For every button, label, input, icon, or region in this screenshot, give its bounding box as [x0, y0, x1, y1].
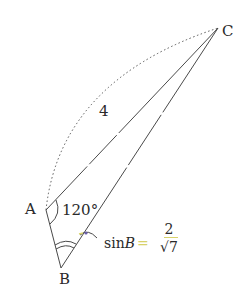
- sin-prefix: sin: [104, 235, 125, 251]
- angle-arc-b-outer: [55, 241, 76, 245]
- fraction-bar: [164, 237, 178, 238]
- diagram-canvas: [0, 0, 237, 300]
- side-length-label: 4: [99, 104, 109, 119]
- side-ac: [46, 28, 218, 210]
- vertex-label-a: A: [25, 202, 36, 217]
- vertex-label-c: C: [222, 24, 233, 39]
- equals-sign: =: [135, 235, 151, 251]
- point-d-marker: [84, 231, 87, 234]
- angle-arc-b-inner: [56, 246, 74, 249]
- fraction-denominator: √7: [160, 240, 178, 254]
- sin-label: sinB=: [104, 236, 151, 250]
- vertex-label-b: B: [59, 272, 70, 287]
- sin-variable: B: [125, 235, 135, 251]
- fraction: 2 √7: [160, 222, 178, 254]
- angle-arc-a: [50, 200, 58, 224]
- side-ab: [46, 210, 61, 268]
- highlight-mark: [79, 233, 83, 234]
- triangle-diagram: C 4 A 120° B sinB= 2 √7: [0, 0, 237, 300]
- fraction-numerator: 2: [160, 222, 178, 237]
- angle-a-label: 120°: [62, 203, 98, 218]
